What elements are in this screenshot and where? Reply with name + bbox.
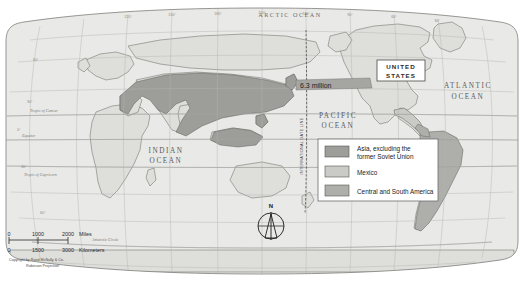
lat-tick-60n: 60° <box>33 58 39 62</box>
label-tropic-of-capricorn: Tropic of Capricorn <box>24 172 57 177</box>
lon-tick-120e: 120° <box>124 15 132 19</box>
legend-swatch-central-south-america[interactable] <box>325 185 349 196</box>
label-indian-ocean-2: OCEAN <box>150 157 183 165</box>
label-migration-count: 6.3 million <box>300 82 332 89</box>
lon-tick-60w: 60° <box>391 15 397 19</box>
lon-tick-120w: 120° <box>302 12 310 16</box>
scale-km-tick-0: 0 <box>8 247 11 253</box>
lat-tick-0: 0° <box>17 128 21 132</box>
label-atlantic-ocean-1: ATLANTIC <box>444 82 492 90</box>
legend-label-central-south-america: Central and South America <box>357 188 434 195</box>
united-states-label-box: UNITED STATES <box>377 60 425 81</box>
legend-label-asia-line2: former Soviet Union <box>357 153 414 160</box>
scale-miles-tick-0: 0 <box>8 231 11 237</box>
label-tropic-of-cancer: Tropic of Cancer <box>30 108 58 113</box>
scale-miles-tick-1000: 1000 <box>32 231 44 237</box>
legend-label-mexico: Mexico <box>357 169 378 176</box>
scale-km-tick-3000: 3000 <box>62 247 74 253</box>
label-atlantic-ocean-2: OCEAN <box>452 93 485 101</box>
label-pacific-ocean-1: PACIFIC <box>319 112 357 120</box>
lat-tick-30n: 30° <box>27 100 33 104</box>
label-arctic-ocean: ARCTIC OCEAN <box>258 11 322 18</box>
copyright-line-1: Copyright by Rand McNally & Co. <box>9 258 64 262</box>
legend-swatch-asia[interactable] <box>325 146 349 157</box>
label-united-states-line1: UNITED <box>386 63 416 70</box>
lon-tick-30w: 30° <box>434 19 440 23</box>
label-indian-ocean-1: INDIAN <box>148 147 183 155</box>
scale-miles-tick-2000: 2000 <box>62 231 74 237</box>
world-map-figure: ARCTIC OCEAN PACIFIC OCEAN ATLANTIC OCEA… <box>0 0 524 281</box>
copyright-line-2: Robinson Projection <box>26 264 59 268</box>
lon-tick-180: 180° <box>214 12 222 16</box>
label-international-date-line: INTERNATIONAL DATE LINE <box>300 117 304 174</box>
label-equator: Equator <box>21 133 36 138</box>
lon-tick-150w: 150° <box>258 11 266 15</box>
scale-miles-unit: Miles <box>79 231 92 237</box>
label-antarctic-circle: Antarctic Circle <box>91 237 118 242</box>
lon-tick-150e: 150° <box>168 13 176 17</box>
scale-km-unit: Kilometers <box>79 247 105 253</box>
scale-km-tick-1500: 1500 <box>32 247 44 253</box>
map-legend[interactable]: Asia, excluding the former Soviet Union … <box>318 139 438 201</box>
label-pacific-ocean-2: OCEAN <box>322 122 355 130</box>
legend-swatch-mexico[interactable] <box>325 166 349 177</box>
map-canvas: ARCTIC OCEAN PACIFIC OCEAN ATLANTIC OCEA… <box>0 0 524 281</box>
lon-tick-90w: 90° <box>347 13 353 17</box>
lat-tick-30s: 30° <box>21 165 27 169</box>
compass-north-label: N <box>269 203 273 209</box>
legend-label-asia-line1: Asia, excluding the <box>357 145 411 153</box>
lat-tick-60s: 60° <box>40 211 46 215</box>
label-united-states-line2: STATES <box>386 72 416 79</box>
